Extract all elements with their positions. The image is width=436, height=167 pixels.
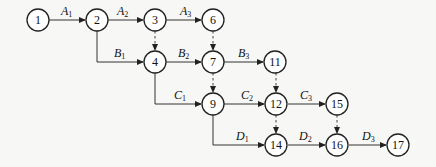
node-17: 17 [387, 134, 409, 156]
node-7: 7 [202, 51, 224, 73]
label-a1: A1 [60, 4, 72, 19]
label-b1: B1 [114, 46, 125, 61]
node-2: 2 [86, 9, 108, 31]
node-6: 6 [202, 9, 224, 31]
label-a2: A2 [116, 4, 128, 19]
node-15: 15 [326, 93, 348, 115]
svg-text:7: 7 [210, 55, 216, 69]
node-16: 16 [326, 134, 348, 156]
label-d3: D3 [361, 129, 375, 144]
label-c2: C2 [241, 88, 253, 103]
node-14: 14 [265, 134, 287, 156]
svg-text:2: 2 [94, 13, 100, 27]
svg-text:15: 15 [331, 97, 343, 111]
network-diagram: A1 A2 A3 B1 B2 B3 C1 C2 C3 D1 D2 D3 1 2 … [0, 0, 436, 167]
svg-text:14: 14 [270, 138, 282, 152]
svg-text:9: 9 [210, 97, 216, 111]
svg-text:1: 1 [35, 13, 41, 27]
svg-text:17: 17 [392, 138, 404, 152]
node-1: 1 [27, 9, 49, 31]
svg-text:12: 12 [270, 97, 282, 111]
label-a3: A3 [179, 4, 191, 19]
svg-text:11: 11 [269, 55, 281, 69]
svg-text:3: 3 [152, 13, 158, 27]
svg-text:4: 4 [152, 55, 158, 69]
label-c1: C1 [174, 88, 186, 103]
label-d1: D1 [235, 129, 249, 144]
node-4: 4 [144, 51, 166, 73]
label-b2: B2 [178, 46, 189, 61]
label-b3: B3 [238, 46, 249, 61]
svg-text:6: 6 [210, 13, 216, 27]
node-11: 11 [264, 51, 286, 73]
label-d2: D2 [298, 129, 312, 144]
node-3: 3 [144, 9, 166, 31]
node-9: 9 [202, 93, 224, 115]
svg-text:16: 16 [331, 138, 343, 152]
node-12: 12 [265, 93, 287, 115]
label-c3: C3 [300, 88, 312, 103]
